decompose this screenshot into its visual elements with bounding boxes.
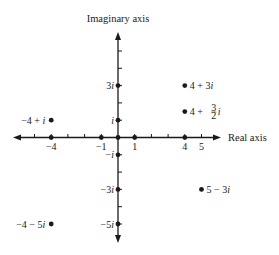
axis-point-dot [116,83,121,88]
complex-plane-diagram: −4−11453ii−i−3i−5i 4 + 3i4 + 32i−4 + i5 … [0,0,279,255]
point-label: 5 − 3i [207,184,231,195]
point-dot [182,109,187,114]
y-tick-label: −5i [101,219,115,230]
plotted-points: 4 + 3i4 + 32i−4 + i5 − 3i−4 − 5i [16,80,230,229]
point-label-i: i [218,106,221,117]
point-dot [199,187,204,192]
x-tick-label: 1 [132,141,137,152]
point-dot [182,83,187,88]
fraction-denominator: 2 [211,110,216,121]
axis-point-dot [182,135,187,140]
axis-point-dot [116,118,121,123]
axis-tick-labels: −4−11453ii−i−3i−5i [46,80,204,229]
point-label: 4 + 3i [190,80,214,91]
y-tick-label: −3i [101,184,115,195]
axis-point-dot [116,187,121,192]
point-label: −4 − 5i [16,219,45,230]
complex-point: 5 − 3i [199,184,230,195]
x-tick-label: 5 [199,141,204,152]
point-dot [49,222,54,227]
real-axis-label: Real axis [228,132,267,143]
y-tick-label: 3i [106,80,114,91]
axis-point-dot [132,135,137,140]
complex-point: −4 + i [21,115,53,126]
point-dot [49,118,54,123]
arrow-left-icon [13,135,21,141]
point-label: 4 + [190,106,204,117]
axis-point-dot [99,135,104,140]
x-tick-label: −4 [46,141,57,152]
arrow-up-icon [115,32,121,40]
point-label: −4 + i [21,115,45,126]
axis-point-dot [116,152,121,157]
axis-point-dot [49,135,54,140]
y-tick-label: −i [106,149,115,160]
complex-point: 4 + 3i [182,80,213,91]
complex-point: −4 − 5i [16,219,53,230]
y-tick-label: i [111,115,114,126]
x-tick-label: 4 [182,141,187,152]
arrow-down-icon [115,235,121,243]
complex-plane-plot: −4−11453ii−i−3i−5i 4 + 3i4 + 32i−4 + i5 … [0,0,279,255]
axis-point-dot [116,222,121,227]
imaginary-axis-label: Imaginary axis [87,13,150,24]
axis-point-dot [116,135,121,140]
complex-point: 4 + 32i [182,102,220,122]
arrow-right-icon [213,135,221,141]
